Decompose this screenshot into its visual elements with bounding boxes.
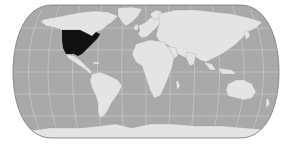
world-map-svg [0, 0, 292, 145]
world-map [0, 0, 292, 145]
